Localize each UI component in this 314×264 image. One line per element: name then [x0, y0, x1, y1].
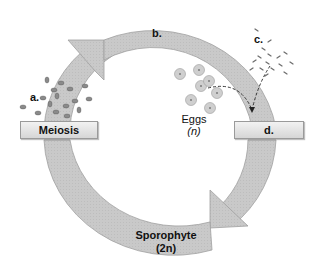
- sporophyte-label: Sporophyte (2n): [126, 229, 206, 254]
- d-box: d.: [234, 121, 304, 139]
- label-a: a.: [30, 92, 39, 103]
- eggs-label: Eggs (n): [176, 114, 212, 137]
- eggs-ploidy: (n): [176, 126, 212, 137]
- label-c: c.: [254, 34, 263, 45]
- upper-cycle-arrow: [44, 31, 276, 128]
- life-cycle-diagram: a. b. c. Meiosis d. Eggs (n) Sporophyte …: [0, 0, 314, 264]
- eggs: [175, 65, 223, 114]
- sporophyte-ploidy: (2n): [126, 242, 206, 255]
- label-b: b.: [152, 28, 162, 39]
- eggs-title: Eggs: [176, 114, 212, 125]
- sporophyte-title: Sporophyte: [126, 229, 206, 242]
- meiosis-box: Meiosis: [20, 121, 98, 139]
